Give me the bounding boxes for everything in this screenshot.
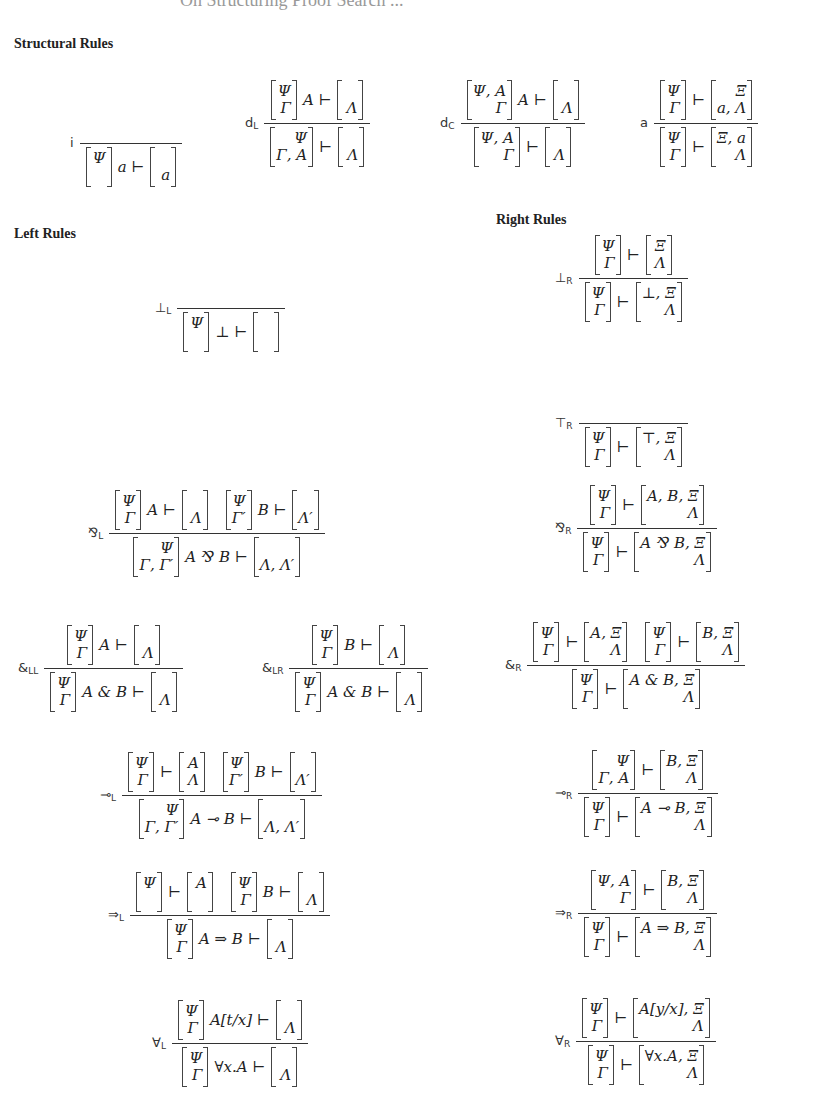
context-bracket-lower: Γ, Γ′ (145, 819, 179, 836)
rule-withR: &RΨΓ⊢A, ΞΛΨΓ⊢B, ΞΛΨΓ⊢A & B, ΞΛ (505, 622, 745, 709)
context-bracket-lower: Γ (591, 302, 605, 319)
inference-fraction: ΨΓ⊢ΞΛΨΓ⊢⊥, ΞΛ (579, 235, 688, 322)
context-bracket-lower: Γ (237, 892, 251, 909)
principal-formula: ⊥ ⊢ (215, 323, 247, 341)
goal-bracket-upper: B, Ξ (702, 625, 733, 642)
goal-bracket-upper (559, 83, 573, 100)
rule-name-lolliR: ⊸R (555, 785, 572, 801)
context-bracket-lower: Γ (596, 505, 610, 522)
sequent: ΨΓA ⊢Λ (271, 80, 364, 120)
rule-allR: ∀RΨΓ⊢A[y/x], ΞΛΨΓ⊢∀x.A, ΞΛ (555, 998, 716, 1085)
conclusion: ΨΓ, Γ′A ⊸ B ⊢Λ, Λ′ (133, 796, 311, 839)
inference-fraction: ΨΓA ⊢ΛΨΓ, A⊢Λ (264, 80, 370, 167)
goal-bracket-lower: Λ (667, 890, 698, 907)
rule-name-allR: ∀R (555, 1033, 570, 1049)
context-bracket-upper: Ψ (590, 920, 604, 937)
sequent: ΨΓ⊢Ξ, aΛ (660, 127, 752, 167)
context-bracket-upper: Ψ (591, 285, 605, 302)
sequent: ΨΓB ⊢Λ (312, 625, 405, 665)
goal-bracket: A[y/x], ΞΛ (633, 998, 710, 1038)
premises: ΨΓ⊢ΞΛ (589, 235, 678, 278)
context-bracket: ΨΓ (312, 625, 338, 665)
inference-fraction: ΨΓ, A⊢B, ΞΛΨΓ⊢A ⊸ B, ΞΛ (578, 750, 717, 837)
rule-i: iΨa ⊢a (70, 130, 182, 187)
conclusion: ΨΓ⊢A & B, ΞΛ (566, 666, 706, 709)
context-bracket: ΨΓ (231, 872, 257, 912)
goal-bracket-upper (304, 875, 318, 892)
sequent: Ψ, AΓA ⊢Λ (467, 80, 579, 120)
goal-bracket: Λ (276, 1000, 302, 1040)
goal-bracket: B, ΞΛ (696, 622, 739, 662)
goal-bracket-lower: Λ (343, 100, 357, 117)
sequent: ΨΓ, A⊢B, ΞΛ (592, 750, 703, 790)
context-bracket-lower: Γ (318, 645, 332, 662)
goal-bracket-lower: Λ (590, 642, 621, 659)
premises (125, 130, 137, 143)
goal-bracket-lower: Λ (282, 1020, 296, 1037)
premises: ΨΓ⊢A, ΞΛΨΓ⊢B, ΞΛ (527, 622, 745, 665)
goal-bracket-upper (156, 150, 170, 167)
goal-bracket-upper: A ⊸ B, Ξ (641, 800, 705, 817)
context-bracket-lower (142, 892, 156, 909)
principal-formula: ⊢ (677, 633, 690, 651)
sequent: ΨΓ⊢A ⅋ B, ΞΛ (583, 532, 711, 572)
goal-bracket-lower: Λ (304, 892, 318, 909)
rule-name-withLL: &LL (18, 660, 38, 676)
context-bracket: ΨΓ (167, 919, 193, 959)
context-bracket: ΨΓ (588, 1045, 614, 1085)
context-bracket-upper: Ψ (598, 753, 629, 770)
principal-formula: A ⊢ (303, 91, 332, 109)
premises: ΨΓ⊢A, B, ΞΛ (584, 485, 710, 528)
context-bracket: ΨΓ (50, 672, 76, 712)
sequent: Ψ⊥ ⊢ (183, 312, 279, 352)
goal-bracket: B, ΞΛ (660, 750, 703, 790)
context-bracket-upper: Ψ (229, 755, 243, 772)
context-bracket-upper: Ψ (56, 675, 70, 692)
goal-bracket: Λ (134, 625, 160, 665)
goal-bracket: Λ (396, 672, 422, 712)
principal-formula: A ⊸ B ⊢ (190, 810, 252, 828)
sequent: ΨΓ∀x.A ⊢Λ (182, 1047, 297, 1087)
context-bracket-upper: Ψ (237, 875, 251, 892)
goal-bracket (253, 312, 279, 352)
goal-bracket-upper (551, 130, 565, 147)
context-bracket: ΨΓ, A (270, 127, 313, 167)
context-bracket-upper: Ψ (539, 625, 553, 642)
rule-a: aΨΓ⊢Ξa, ΛΨΓ⊢Ξ, aΛ (640, 80, 758, 167)
goal-bracket: Λ (338, 127, 364, 167)
goal-bracket: Ξ, aΛ (711, 127, 752, 167)
principal-formula: ⊢ (168, 883, 181, 901)
context-bracket: Ψ (183, 312, 209, 352)
context-bracket-lower: Γ (590, 937, 604, 954)
principal-formula: ⊢ (160, 763, 173, 781)
context-bracket-lower: Γ (588, 1018, 602, 1035)
goal-bracket-upper: A ⇒ B, Ξ (641, 920, 705, 937)
context-bracket-upper: Ψ (92, 150, 106, 167)
sequent: ΨΓ⊢AΛ (128, 752, 205, 792)
goal-bracket-lower: Λ (188, 510, 202, 527)
context-bracket: ΨΓ (271, 80, 297, 120)
goal-bracket-upper (140, 628, 154, 645)
conclusion: ΨΓ⊢A ⊸ B, ΞΛ (578, 794, 717, 837)
goal-bracket-lower: Λ (157, 692, 171, 709)
context-bracket: ΨΓ, Γ′ (133, 537, 179, 577)
premises: ΨΓA ⊢Λ (265, 80, 370, 123)
sequent: ΨΓ⊢A, B, ΞΛ (590, 485, 704, 525)
principal-formula: ⊢ (565, 633, 578, 651)
rule-name-topR: ⊤R (555, 415, 573, 431)
context-bracket-lower: Γ (651, 642, 665, 659)
goal-bracket: ⊤, ΞΛ (636, 427, 682, 467)
principal-formula: ⊢ (641, 761, 654, 779)
principal-formula: ⊢ (526, 138, 539, 156)
conclusion: ΨΓA ⇒ B ⊢Λ (161, 916, 299, 959)
context-bracket-upper: Ψ, A (473, 83, 507, 100)
context-bracket: ΨΓ (115, 490, 141, 530)
sequent: ΨΓ, Γ′A ⅋ B ⊢Λ, Λ′ (133, 537, 300, 577)
context-bracket: Ψ, AΓ (467, 80, 513, 120)
inference-fraction: ΨΓ⊢⊤, ΞΛ (579, 410, 688, 467)
rule-withLL: &LLΨΓA ⊢ΛΨΓA & B ⊢Λ (18, 625, 183, 712)
context-bracket: ΨΓ (585, 427, 611, 467)
context-bracket-upper: Ψ (588, 1001, 602, 1018)
context-bracket: Ψ, AΓ (591, 870, 637, 910)
context-bracket: ΨΓ, A (592, 750, 635, 790)
